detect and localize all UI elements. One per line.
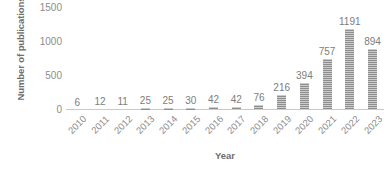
bar-slot: 6 bbox=[66, 8, 89, 110]
x-tick-slot: 2010 bbox=[66, 112, 89, 148]
x-tick-slot: 2012 bbox=[111, 112, 134, 148]
bar bbox=[254, 105, 263, 110]
plot-area: 612112525304242762163947571191894 bbox=[66, 8, 384, 110]
bar bbox=[277, 95, 286, 110]
x-axis-tick-labels: 2010201120122013201420152016201720182019… bbox=[66, 112, 384, 148]
bar-slot: 1191 bbox=[339, 8, 362, 110]
x-axis-tick-label: 2019 bbox=[270, 113, 293, 136]
x-axis-tick-label: 2010 bbox=[66, 113, 89, 136]
y-axis-tick-label: 0 bbox=[28, 105, 62, 115]
x-axis-tick-label: 2013 bbox=[134, 113, 157, 136]
x-tick-slot: 2015 bbox=[180, 112, 203, 148]
bar-slot: 216 bbox=[270, 8, 293, 110]
y-axis-tick-label: 1500 bbox=[28, 3, 62, 13]
bar bbox=[186, 108, 195, 110]
x-tick-slot: 2014 bbox=[157, 112, 180, 148]
x-tick-slot: 2017 bbox=[225, 112, 248, 148]
x-tick-slot: 2013 bbox=[134, 112, 157, 148]
bar bbox=[118, 109, 127, 110]
y-axis-tick-labels: 050010001500 bbox=[26, 0, 62, 171]
x-axis-tick-label: 2016 bbox=[202, 113, 225, 136]
x-axis-title: Year bbox=[66, 150, 384, 161]
y-axis-title: Number of publications bbox=[15, 1, 26, 101]
x-tick-slot: 2022 bbox=[339, 112, 362, 148]
bar-chart: Number of publications 050010001500 6121… bbox=[0, 0, 392, 171]
x-axis-tick-label: 2011 bbox=[89, 113, 111, 135]
bar bbox=[345, 29, 354, 110]
bar-slot: 12 bbox=[89, 8, 112, 110]
x-axis-tick-label: 2015 bbox=[179, 113, 202, 136]
x-axis-tick-label: 2017 bbox=[225, 113, 248, 136]
bar bbox=[368, 49, 377, 110]
bar bbox=[73, 109, 82, 110]
bar-slot: 894 bbox=[361, 8, 384, 110]
bar-value-label: 894 bbox=[356, 36, 390, 47]
x-axis-tick-label: 2012 bbox=[111, 113, 134, 136]
y-axis-tick-label: 1000 bbox=[28, 37, 62, 47]
bar bbox=[232, 107, 241, 110]
x-tick-slot: 2016 bbox=[202, 112, 225, 148]
y-axis-tick-label: 500 bbox=[28, 71, 62, 81]
bar bbox=[164, 108, 173, 110]
bar bbox=[323, 59, 332, 110]
bar bbox=[209, 107, 218, 110]
x-tick-slot: 2018 bbox=[248, 112, 271, 148]
x-tick-slot: 2011 bbox=[89, 112, 112, 148]
x-tick-slot: 2021 bbox=[316, 112, 339, 148]
x-tick-slot: 2020 bbox=[293, 112, 316, 148]
bar bbox=[95, 109, 104, 110]
x-axis-tick-label: 2020 bbox=[293, 113, 316, 136]
bar bbox=[300, 83, 309, 110]
bar-slot: 76 bbox=[248, 8, 271, 110]
x-axis-tick-label: 2022 bbox=[338, 113, 361, 136]
x-axis-tick-label: 2023 bbox=[361, 113, 384, 136]
x-tick-slot: 2023 bbox=[361, 112, 384, 148]
x-axis-tick-label: 2014 bbox=[157, 113, 180, 136]
x-axis-tick-label: 2021 bbox=[316, 113, 339, 136]
bar bbox=[141, 108, 150, 110]
bar-slot: 394 bbox=[293, 8, 316, 110]
x-tick-slot: 2019 bbox=[270, 112, 293, 148]
x-axis-tick-label: 2018 bbox=[248, 113, 271, 136]
